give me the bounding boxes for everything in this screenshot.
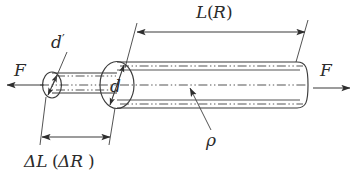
resistivity-label: ρ: [205, 130, 216, 150]
length-label-R: R: [212, 2, 226, 22]
length-label-paren-close: ): [226, 2, 233, 22]
dprime-label: d′: [51, 32, 65, 52]
resistivity-label-group: ρ: [190, 88, 216, 150]
cylinder-body-group: [117, 62, 308, 108]
delta-resistance-label: ΔR: [57, 151, 83, 171]
resistivity-leader-line: [190, 88, 211, 130]
delta-extension-left: [40, 97, 46, 145]
length-extension-right: [296, 20, 308, 62]
force-right-label: F: [319, 60, 333, 80]
length-extension-left: [125, 23, 137, 68]
delta-extension-right: [109, 108, 115, 145]
delta-length-dimension-group: ΔL ( ΔR ): [23, 97, 115, 171]
force-left-group: F: [7, 60, 44, 85]
delta-paren-close: ): [88, 151, 95, 171]
force-left-label: F: [13, 60, 27, 80]
length-label-L: L: [195, 2, 207, 22]
figure-canvas: L ( R ) d: [0, 0, 356, 176]
thin-rod-group: [40, 72, 117, 98]
delta-length-label: ΔL: [23, 151, 48, 171]
dprime-label-group: d′: [51, 32, 67, 87]
force-right-group: F: [313, 60, 350, 88]
rod-diagram-svg: L ( R ) d: [0, 0, 356, 176]
dprime-leader-line: [52, 52, 67, 87]
length-dimension-group: L ( R ): [125, 2, 308, 68]
